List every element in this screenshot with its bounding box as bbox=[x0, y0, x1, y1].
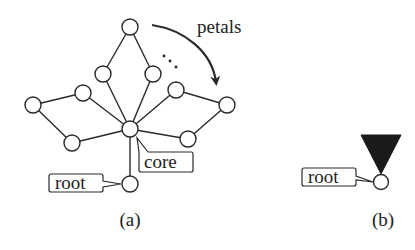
panel-a: petals core root (a) bbox=[25, 16, 241, 231]
subtree-triangle-icon bbox=[361, 135, 401, 174]
node-root-b bbox=[374, 175, 389, 190]
node-left-mid bbox=[75, 85, 91, 101]
edge bbox=[83, 93, 130, 129]
node-root bbox=[122, 176, 138, 192]
node-lower-left bbox=[64, 135, 80, 151]
caption-a: (a) bbox=[119, 209, 140, 231]
caption-b: (b) bbox=[372, 209, 394, 231]
node-core bbox=[122, 121, 138, 137]
petal-diagram: petals core root (a) root (b) bbox=[0, 0, 415, 250]
edge bbox=[72, 129, 130, 143]
petals-label: petals bbox=[197, 16, 241, 37]
node-right-mid bbox=[168, 82, 184, 98]
edge bbox=[103, 74, 130, 129]
core-label: core bbox=[144, 151, 177, 172]
ellipsis-dots bbox=[163, 55, 178, 69]
node-far-right bbox=[219, 97, 235, 113]
node-upper-left-inner bbox=[95, 66, 111, 82]
edge bbox=[130, 74, 153, 129]
edge bbox=[130, 90, 176, 129]
node-lower-right bbox=[180, 131, 196, 147]
node-upper-right-inner bbox=[145, 66, 161, 82]
edge bbox=[130, 129, 188, 139]
root-label-b: root bbox=[308, 166, 339, 187]
edges bbox=[33, 27, 227, 184]
root-label-a: root bbox=[55, 172, 86, 193]
node-far-left bbox=[25, 97, 41, 113]
panel-b: root (b) bbox=[302, 135, 401, 231]
node-top bbox=[122, 19, 138, 35]
